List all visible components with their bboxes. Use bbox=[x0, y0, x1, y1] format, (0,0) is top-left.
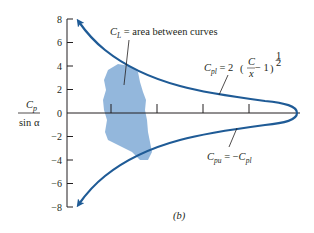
svg-text:−2: −2 bbox=[51, 131, 62, 142]
thin-airfoil-pressure-diagram: 8 6 4 2 0 −2 −4 −6 −8 Cp sin α CL = area… bbox=[0, 0, 314, 233]
svg-text:Cpl = 2: Cpl = 2 bbox=[204, 62, 233, 76]
svg-text:Cp: Cp bbox=[26, 99, 37, 113]
svg-text:−8: −8 bbox=[51, 202, 62, 213]
svg-text:CL = area between curves: CL = area between curves bbox=[110, 26, 217, 40]
svg-text:−4: −4 bbox=[51, 155, 62, 166]
svg-text:x: x bbox=[248, 68, 254, 79]
svg-text:sin α: sin α bbox=[19, 117, 40, 128]
figure-caption: (b) bbox=[173, 210, 186, 222]
svg-text:− 1: − 1 bbox=[255, 62, 269, 73]
svg-text:Cpu = −Cpl: Cpu = −Cpl bbox=[207, 151, 251, 165]
svg-text:4: 4 bbox=[57, 61, 62, 72]
svg-text:(: ( bbox=[240, 63, 244, 75]
svg-text:−6: −6 bbox=[51, 178, 62, 189]
svg-text:0: 0 bbox=[57, 108, 62, 119]
svg-text:2: 2 bbox=[57, 84, 62, 95]
y-axis-label: Cp sin α bbox=[18, 99, 40, 128]
svg-text:8: 8 bbox=[57, 14, 62, 25]
svg-text:6: 6 bbox=[57, 37, 62, 48]
lift-area-shading bbox=[103, 64, 152, 160]
y-tick-labels: 8 6 4 2 0 −2 −4 −6 −8 bbox=[51, 14, 62, 213]
svg-text:): ) bbox=[270, 63, 274, 75]
upper-curve-annotation: Cpl = 2 ( C x − 1 ) 1 2 bbox=[204, 50, 281, 95]
svg-text:2: 2 bbox=[276, 57, 281, 68]
